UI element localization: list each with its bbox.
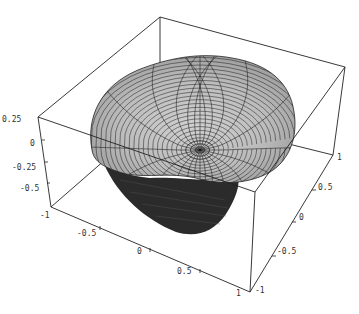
x-axis-tick-label: 0.5 (177, 267, 192, 276)
z-axis-tick-label: 0 (30, 139, 35, 148)
z-axis-tick-label: -0.5 (20, 184, 39, 193)
x-axis-tick-label: 1 (236, 289, 241, 298)
y-axis-tick-label: 0 (299, 213, 304, 222)
y-axis-tick-label: 0.5 (318, 183, 333, 192)
y-axis-tick-label: 1 (337, 153, 342, 162)
x-axis-tick-label: -0.5 (77, 229, 96, 238)
surface-plot: 0.250-0.25-0.5-1-0.500.51-1-0.500.51 (0, 0, 359, 314)
z-axis-tick-label: 0.25 (2, 115, 21, 124)
x-axis-tick-label: 0 (137, 247, 142, 256)
y-axis-tick-label: -1 (255, 286, 265, 295)
z-axis-tick-label: -0.25 (12, 163, 36, 172)
y-axis-tick-label: -0.5 (277, 247, 296, 256)
z-axis-tick-label: -1 (40, 211, 50, 220)
